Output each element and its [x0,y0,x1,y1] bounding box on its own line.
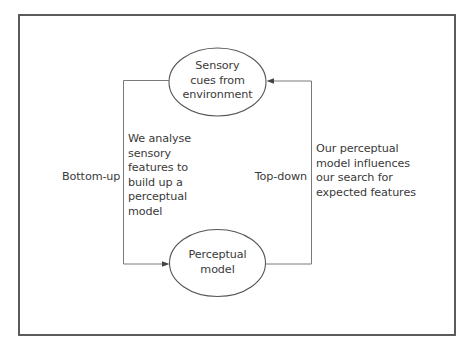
edge-top-down-description: Our perceptual model influences our sear… [316,142,416,200]
edge-top-down-label: Top-down [250,170,307,185]
node-sensory-cues-label: Sensory cues from environment [167,59,268,103]
edge-bottom-up-description: We analyse sensory features to build up … [128,132,191,220]
edge-bottom-up-label: Bottom-up [62,170,120,185]
node-perceptual-model-label: Perceptual model [167,248,268,277]
